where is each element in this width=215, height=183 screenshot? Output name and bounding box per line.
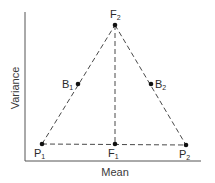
point-p2 [184, 143, 189, 148]
label-p1: P1 [34, 147, 45, 160]
x-axis-label: Mean [101, 166, 129, 178]
label-f1: F1 [108, 147, 119, 160]
label-b2: B2 [155, 78, 166, 91]
label-b1: B1 [62, 78, 73, 91]
point-f1 [113, 142, 118, 147]
point-b1 [76, 82, 81, 87]
label-f2: F2 [110, 8, 121, 21]
label-p2: P2 [179, 148, 190, 161]
variance-mean-diagram: F2 B1 B2 P1 F1 P2 Mean Variance [0, 0, 215, 183]
point-f2 [113, 23, 118, 28]
point-p1 [40, 142, 45, 147]
y-axis-label: Variance [9, 67, 21, 110]
point-b2 [149, 82, 154, 87]
